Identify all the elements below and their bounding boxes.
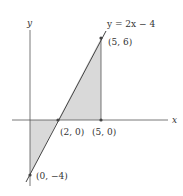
diagram: y x y = 2x − 4 (5, 6) (2, 0) (5, 0) (0, … <box>0 0 183 196</box>
graph-svg: y x y = 2x − 4 (5, 6) (2, 0) (5, 0) (0, … <box>0 0 183 196</box>
point-label-5-6: (5, 6) <box>108 37 132 47</box>
point-label-2-0: (2, 0) <box>60 127 84 137</box>
point-0-m4 <box>28 173 31 176</box>
x-axis-label: x <box>172 115 177 125</box>
point-5-0 <box>99 118 102 121</box>
point-2-0 <box>56 118 59 121</box>
point-5-6 <box>99 36 102 39</box>
line-equation-label: y = 2x − 4 <box>106 19 155 29</box>
shaded-region-upper <box>58 38 101 120</box>
point-label-5-0: (5, 0) <box>92 127 116 137</box>
y-axis-label: y <box>26 18 33 28</box>
point-label-0-m4: (0, −4) <box>36 171 68 181</box>
